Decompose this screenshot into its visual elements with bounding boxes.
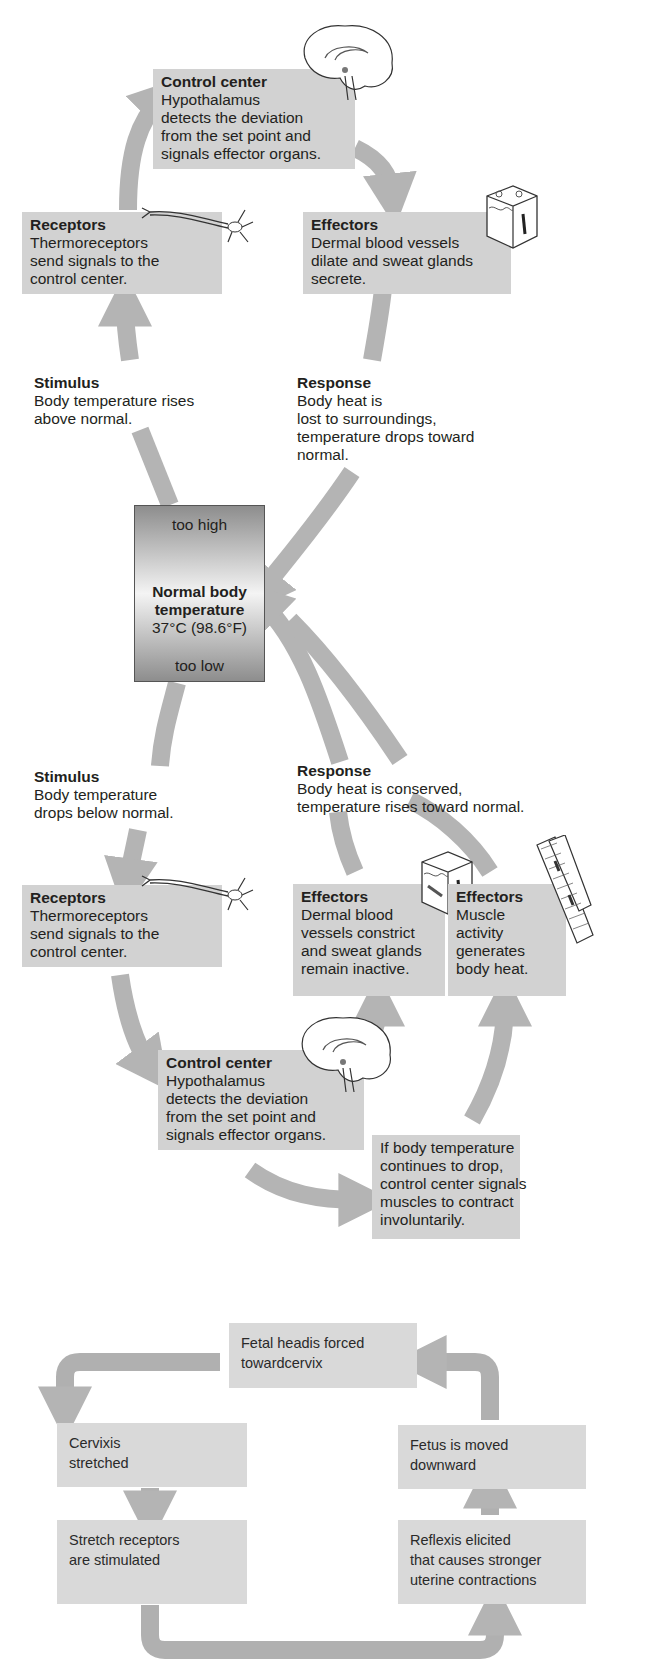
shivering-note-box: If body temperature continues to drop, c… [372,1135,520,1239]
arrow-dermal-to-response [338,812,355,872]
response-top-line: Body heat is [297,392,474,410]
shivering-note-line: muscles to contract [380,1193,512,1211]
arrow-stimulus-to-receptors-bottom [128,830,138,880]
control-center-bottom-line: from the set point and [166,1108,356,1126]
neuron-icon [140,200,255,245]
too-high-label: too high [135,516,264,534]
receptors-top-line: send signals to the [30,252,214,270]
cervix-box: Cervixis stretched [57,1423,247,1487]
arrow-fetus-to-fetal [425,1362,490,1420]
cervix-line: stretched [69,1453,235,1473]
effectors-top-title: Effectors [311,216,503,234]
reflex-line: uterine contractions [410,1570,574,1590]
response-top-line: lost to surroundings, [297,410,474,428]
response-bottom-title: Response [297,762,524,780]
arrow-response-to-thermo [262,472,352,590]
shivering-note-line: involuntarily. [380,1211,512,1229]
stimulus-top-title: Stimulus [34,374,194,392]
stretch-receptors-box: Stretch receptors are stimulated [57,1520,247,1604]
control-center-top-line: signals effector organs. [161,145,347,163]
normal-temperature-block: Normal body temperature 37°C (98.6°F) [135,583,264,637]
control-center-bottom-line: signals effector organs. [166,1126,356,1144]
reflex-line: that causes stronger [410,1550,574,1570]
effectors-dermal-title: Effectors [301,888,437,906]
neuron-icon [140,868,255,913]
arrow-control-to-note [250,1170,360,1200]
stimulus-bottom-line: Body temperature [34,786,174,804]
effectors-top-line: dilate and sweat glands [311,252,503,270]
muscle-fiber-icon [535,835,595,945]
fetal-head-line: towardcervix [241,1353,405,1373]
fetal-head-line: Fetal headis forced [241,1333,405,1353]
stretch-receptors-line: Stretch receptors [69,1530,235,1550]
stimulus-bottom-title: Stimulus [34,768,174,786]
receptors-bottom-line: send signals to the [30,925,214,943]
response-top-line: temperature drops toward [297,428,474,446]
response-bottom-line: Body heat is conserved, [297,780,524,798]
response-top-title: Response [297,374,474,392]
fetus-moved-box: Fetus is moved downward [398,1425,586,1489]
effectors-dermal-line: vessels constrict [301,924,437,942]
skin-block-icon [483,184,541,250]
normal-temp-title-2: temperature [135,601,264,619]
normal-temp-title-1: Normal body [135,583,264,601]
stimulus-top-label: Stimulus Body temperature rises above no… [34,374,194,428]
arrow-stretch-to-reflex [150,1605,495,1650]
shivering-note-line: If body temperature [380,1139,512,1157]
response-bottom-label: Response Body heat is conserved, tempera… [297,762,524,816]
effectors-dermal-line: and sweat glands [301,942,437,960]
fetus-moved-line: Fetus is moved [410,1435,574,1455]
normal-temp-value: 37°C (98.6°F) [135,619,264,637]
too-low-label: too low [135,657,264,675]
effectors-top-line: secrete. [311,270,503,288]
fetal-head-box: Fetal headis forced towardcervix [229,1323,417,1388]
arrow-stimulus-to-receptors-top [125,305,130,360]
shivering-note-line: control center signals [380,1175,512,1193]
arrow-receptors-to-control-bottom [120,975,150,1065]
brain-icon [298,1010,398,1095]
control-center-top-line: detects the deviation [161,109,347,127]
stimulus-bottom-line: drops below normal. [34,804,174,822]
arrow-thermo-to-stimulus-top [140,430,170,505]
reflex-box: Reflexis elicited that causes stronger u… [398,1520,586,1604]
brain-icon [300,18,400,103]
effectors-muscle-line: body heat. [456,960,558,978]
stretch-receptors-line: are stimulated [69,1550,235,1570]
response-top-line: normal. [297,446,474,464]
cervix-line: Cervixis [69,1433,235,1453]
response-bottom-line: temperature rises toward normal. [297,798,524,816]
arrow-control-to-effectors-top [355,148,392,195]
effectors-dermal-line: remain inactive. [301,960,437,978]
stimulus-bottom-label: Stimulus Body temperature drops below no… [34,768,174,822]
control-center-top-line: from the set point and [161,127,347,145]
normal-body-temperature-box: too high Normal body temperature 37°C (9… [134,505,265,682]
shivering-note-line: continues to drop, [380,1157,512,1175]
arrow-note-to-muscle [472,1005,505,1120]
stimulus-top-line: Body temperature rises [34,392,194,410]
reflex-line: Reflexis elicited [410,1530,574,1550]
arrow-fetal-to-cervix [65,1362,220,1408]
stimulus-top-line: above normal. [34,410,194,428]
receptors-bottom-line: control center. [30,943,214,961]
response-top-label: Response Body heat is lost to surroundin… [297,374,474,464]
effectors-top-line: Dermal blood vessels [311,234,503,252]
effectors-dermal-line: Dermal blood [301,906,437,924]
receptors-top-line: control center. [30,270,214,288]
fetus-moved-line: downward [410,1455,574,1475]
effectors-top-box: Effectors Dermal blood vessels dilate an… [303,212,511,294]
arrow-thermo-to-stimulus-bottom [160,683,177,766]
